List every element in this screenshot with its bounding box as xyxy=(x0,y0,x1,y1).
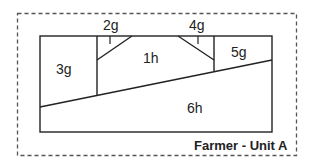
divider-6h xyxy=(40,60,272,107)
field-unit-diagram: 2g 4g 3g 1h 5g 6h Farmer - Unit A xyxy=(0,0,311,163)
unit-title: Farmer - Unit A xyxy=(194,139,287,152)
region-label-2g: 2g xyxy=(103,18,119,32)
divider-2g xyxy=(97,36,132,60)
region-label-4g: 4g xyxy=(189,18,205,32)
region-label-3g: 3g xyxy=(56,62,72,76)
divider-4g xyxy=(178,36,214,60)
unit-boundary-dashed xyxy=(18,14,297,156)
region-label-6h: 6h xyxy=(187,101,203,115)
region-label-1h: 1h xyxy=(143,51,159,65)
region-label-5g: 5g xyxy=(231,45,247,59)
